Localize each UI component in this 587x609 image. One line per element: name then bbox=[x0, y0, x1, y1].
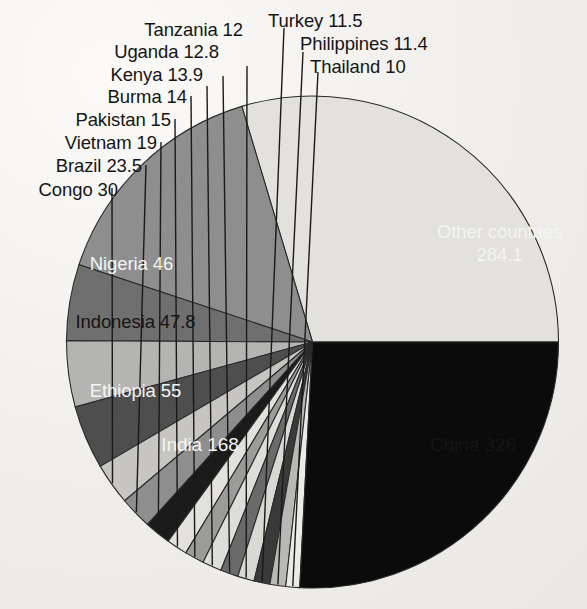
slice-label-china: China 326 bbox=[408, 435, 538, 455]
leader-line-tanzania bbox=[246, 66, 247, 578]
slice-label-pakistan: Pakistan 15 bbox=[0, 110, 171, 129]
slice-label-turkey: Turkey 11.5 bbox=[268, 11, 363, 30]
slice-label-other-countries-value: 284.1 bbox=[422, 245, 577, 264]
slice-label-brazil: Brazil 23.5 bbox=[0, 156, 142, 175]
slice-label-congo: Congo 30 bbox=[0, 180, 118, 199]
slice-label-other-countries: Other countries bbox=[422, 222, 577, 241]
slice-label-indonesia: Indonesia 47.8 bbox=[48, 312, 223, 331]
slice-label-uganda: Uganda 12.8 bbox=[0, 42, 219, 61]
slice-label-thailand: Thailand 10 bbox=[310, 57, 406, 76]
slice-label-vietnam: Vietnam 19 bbox=[0, 133, 157, 152]
slice-label-ethiopia: Ethiopia 55 bbox=[63, 381, 208, 400]
slice-label-burma: Burma 14 bbox=[0, 87, 187, 106]
slice-label-tanzania: Tanzania 12 bbox=[0, 20, 243, 39]
leader-line-congo bbox=[112, 188, 113, 484]
pie-chart-figure: China 326 India 168 Ethiopia 55 Indonesi… bbox=[0, 0, 587, 609]
slice-label-india: India 168 bbox=[140, 435, 260, 455]
pie-slice-other-countries[interactable] bbox=[300, 342, 559, 588]
slice-label-philippines: Philippines 11.4 bbox=[300, 34, 428, 53]
slice-label-kenya: Kenya 13.9 bbox=[0, 65, 203, 84]
slice-label-nigeria: Nigeria 46 bbox=[59, 254, 204, 273]
